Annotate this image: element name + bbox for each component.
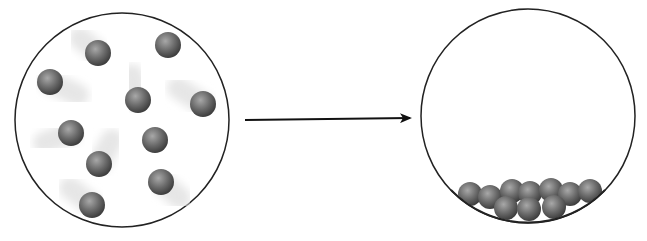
gas-particle [79,192,105,218]
gas-container [15,13,229,227]
liquid-particle [542,195,566,219]
gas-particle [125,87,151,113]
liquid-particle [517,197,541,221]
arrow-icon [245,118,410,120]
liquid-particle [578,179,602,203]
gas-particle [148,169,174,195]
liquid-container [421,9,635,223]
liquid-particle [494,196,518,220]
gas-particle [85,40,111,66]
container-outline [15,13,229,227]
gas-particle [190,91,216,117]
gas-particle [155,32,181,58]
gas-to-liquid-diagram [0,0,647,241]
gas-particle [142,127,168,153]
gas-particle [58,120,84,146]
gas-particle [37,69,63,95]
gas-particle [86,151,112,177]
